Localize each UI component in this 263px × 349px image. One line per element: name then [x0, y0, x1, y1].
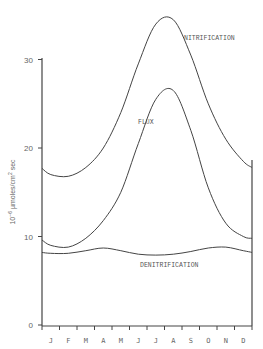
x-tick-label: M	[84, 337, 88, 345]
x-tick-label: M	[119, 337, 123, 345]
x-tick-label: A	[171, 337, 176, 345]
x-tick-label: S	[189, 337, 193, 345]
series-line-denitrification	[42, 247, 252, 255]
y-tick-label: 20	[24, 144, 33, 153]
y-ticks: 0102030	[24, 56, 42, 331]
series-label-flux: FLUX	[138, 119, 154, 126]
y-tick-label: 0	[29, 321, 34, 330]
y-tick-label: 30	[24, 56, 33, 65]
x-tick-label: J	[136, 337, 140, 345]
x-tick-label: A	[101, 337, 106, 345]
axes	[42, 58, 252, 326]
series-curves	[42, 17, 252, 255]
series-line-flux	[42, 88, 252, 247]
series-label-nitrification: NITRIFICATION	[184, 35, 235, 42]
x-tick-label: J	[154, 337, 158, 345]
x-tick-label: J	[49, 337, 53, 345]
y-tick-label: 10	[24, 233, 33, 242]
series-label-denitrification: DENITRIFICATION	[140, 262, 199, 269]
x-tick-label: O	[206, 337, 210, 345]
x-tick-label: D	[241, 337, 245, 345]
x-ticks: JFMAMJJASOND	[42, 326, 252, 345]
x-tick-label: F	[66, 337, 70, 345]
series-labels: NITRIFICATIONFLUXDENITRIFICATION	[138, 35, 235, 269]
y-axis-label: 10−6 µmoles/cm2 sec	[7, 159, 17, 225]
line-chart: 0102030 JFMAMJJASOND NITRIFICATIONFLUXDE…	[0, 0, 263, 349]
x-tick-label: N	[224, 337, 228, 345]
